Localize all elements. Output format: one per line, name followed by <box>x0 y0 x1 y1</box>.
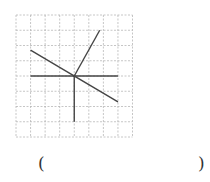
intersection-point <box>73 75 76 78</box>
ray-up-right <box>74 30 99 76</box>
answer-blank[interactable] <box>52 153 196 173</box>
answer-close-paren: ) <box>198 153 205 173</box>
answer-open-paren: ( <box>38 153 45 173</box>
